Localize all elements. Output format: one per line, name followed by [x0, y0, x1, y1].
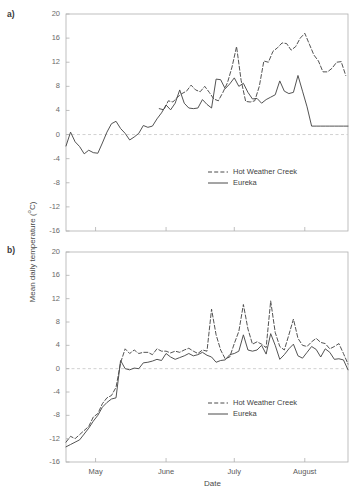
y-tick-label: -4: [38, 154, 60, 163]
plot-frame: [66, 14, 348, 231]
legend-label-hot-weather-creek: Hot Weather Creek: [233, 167, 297, 176]
y-axis-title: Mean daily temperature (oC): [26, 132, 37, 372]
panel-label-a: a): [7, 9, 15, 19]
y-tick-label: 20: [38, 9, 60, 18]
y-axis-title-degree: o: [26, 210, 32, 213]
legend-label-eureka: Eureka: [233, 178, 257, 187]
legend-label-hot-weather-creek: Hot Weather Creek: [233, 398, 297, 407]
series-line-hot-weather-creek: [66, 301, 348, 442]
panel-label-b: b): [7, 245, 15, 255]
panel-a: [66, 14, 348, 231]
y-tick-label: -12: [38, 434, 60, 443]
y-tick-label: 8: [38, 81, 60, 90]
x-tick-label: July: [209, 467, 259, 476]
y-tick-label: 4: [38, 105, 60, 114]
y-tick-label: 20: [38, 247, 60, 256]
legend-label-eureka: Eureka: [233, 409, 257, 418]
y-tick-label: 12: [38, 294, 60, 303]
plot-frame: [66, 252, 348, 462]
figure-container: a) b) Mean daily temperature (oC) Date 2…: [0, 0, 354, 495]
y-tick-label: 0: [38, 364, 60, 373]
y-tick-label: -4: [38, 387, 60, 396]
y-tick-label: -12: [38, 202, 60, 211]
y-tick-label: 4: [38, 340, 60, 349]
y-tick-label: -16: [38, 226, 60, 235]
y-tick-label: 12: [38, 57, 60, 66]
y-tick-label: -16: [38, 457, 60, 466]
y-tick-label: -8: [38, 410, 60, 419]
y-tick-label: -8: [38, 178, 60, 187]
x-tick-label: June: [141, 467, 191, 476]
x-tick-label: May: [71, 467, 121, 476]
x-tick-label: August: [280, 467, 330, 476]
y-axis-title-tail: C): [28, 202, 37, 210]
y-tick-label: 16: [38, 270, 60, 279]
y-axis-title-main: Mean daily temperature (: [28, 213, 37, 302]
x-axis-title: Date: [75, 479, 350, 488]
panel-b: [66, 252, 348, 462]
y-tick-label: 8: [38, 317, 60, 326]
series-line-eureka: [66, 75, 348, 153]
y-tick-label: 0: [38, 130, 60, 139]
y-tick-label: 16: [38, 33, 60, 42]
